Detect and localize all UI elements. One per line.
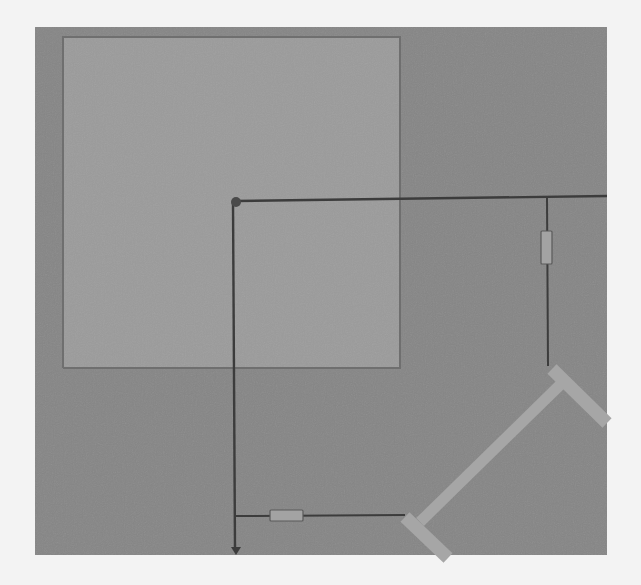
node-marker-icon[interactable] (231, 197, 241, 207)
scene-page: room-area (0, 0, 641, 585)
vertical-component[interactable] (541, 231, 552, 264)
path-line-bottom[interactable] (235, 515, 405, 516)
scene-drawing (0, 0, 641, 585)
path-line-right[interactable] (547, 197, 548, 366)
horizontal-component[interactable] (270, 510, 303, 521)
